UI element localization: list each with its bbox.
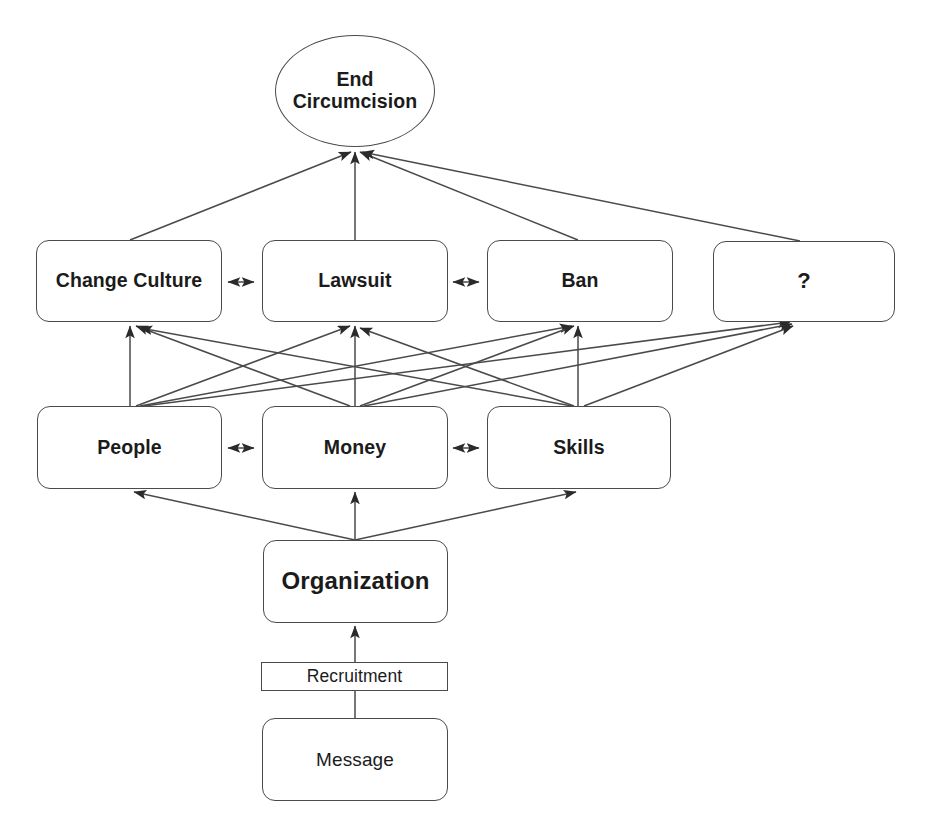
node-ban-label: Ban — [488, 270, 672, 292]
edge-organization-to-people — [134, 492, 355, 540]
edge-skills-to-unknown — [584, 326, 793, 406]
node-lawsuit[interactable]: Lawsuit — [262, 240, 448, 322]
node-goal-label: EndCircumcision — [276, 69, 434, 113]
node-change-culture-label: Change Culture — [37, 270, 221, 292]
node-skills[interactable]: Skills — [487, 406, 671, 489]
node-people-label: People — [38, 437, 221, 459]
edge-organization-to-skills — [355, 492, 576, 540]
node-change-culture[interactable]: Change Culture — [36, 240, 222, 322]
diagram-canvas: EndCircumcision Change Culture Lawsuit B… — [0, 0, 931, 839]
node-message-label: Message — [263, 749, 447, 770]
node-unknown-label: ? — [714, 269, 894, 294]
edge-ban-to-goal — [360, 152, 578, 240]
node-organization[interactable]: Organization — [263, 540, 448, 623]
node-money-label: Money — [263, 437, 447, 459]
node-lawsuit-label: Lawsuit — [263, 270, 447, 292]
node-skills-label: Skills — [488, 437, 670, 459]
node-goal[interactable]: EndCircumcision — [275, 35, 435, 147]
node-people[interactable]: People — [37, 406, 222, 489]
node-recruitment[interactable]: Recruitment — [261, 662, 448, 691]
node-ban[interactable]: Ban — [487, 240, 673, 322]
node-recruitment-label: Recruitment — [262, 667, 447, 687]
node-money[interactable]: Money — [262, 406, 448, 489]
node-message[interactable]: Message — [262, 718, 448, 801]
edge-unknown-to-goal — [362, 152, 800, 241]
node-unknown[interactable]: ? — [713, 241, 895, 322]
edge-change-culture-to-goal — [130, 152, 351, 240]
node-organization-label: Organization — [264, 568, 447, 595]
